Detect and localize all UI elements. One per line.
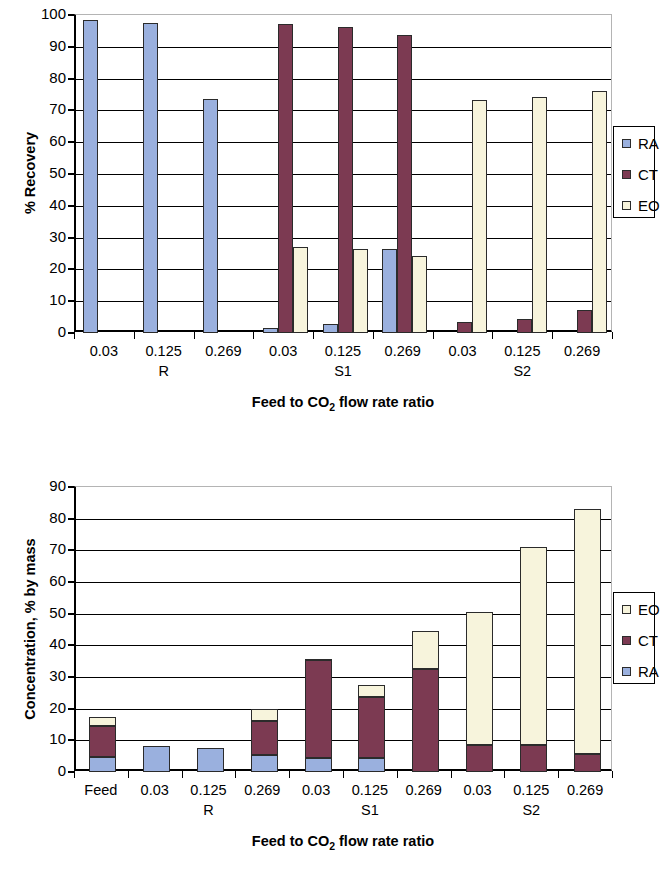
x-tick-mark — [433, 332, 434, 339]
legend-label-ra: RA — [638, 664, 659, 679]
y-tick-label: 100 — [22, 6, 66, 21]
bar-concentration-chart-eo-4 — [305, 659, 332, 661]
x-axis-title: Feed to CO2 flow rate ratio — [44, 394, 642, 413]
bar-concentration-chart-ct-3 — [251, 721, 278, 754]
bar-concentration-chart-eo-7 — [466, 612, 493, 745]
y-tick-mark — [68, 708, 74, 710]
y-tick-label: 0 — [22, 324, 66, 339]
x-tick-mark — [552, 332, 553, 339]
legend-swatch-ra — [622, 667, 631, 676]
x-tick-mark — [134, 332, 135, 339]
legend-item-ct: CT — [622, 633, 658, 648]
bar-recovery-chart-ra-5 — [382, 249, 397, 333]
bar-recovery-chart-ct-7 — [517, 319, 532, 333]
y-tick-mark — [68, 676, 74, 678]
bar-recovery-chart-ra-3 — [263, 328, 278, 333]
bar-concentration-chart-ct-7 — [466, 745, 493, 772]
x-group-label: S2 — [491, 802, 571, 818]
legend-item-ct: CT — [622, 167, 658, 182]
y-tick-mark — [68, 46, 74, 48]
bar-concentration-chart-ct-4 — [305, 659, 332, 758]
x-tick-mark — [373, 332, 374, 339]
y-tick-label: 80 — [22, 510, 66, 525]
x-tick-mark — [504, 771, 505, 778]
x-axis-title-subscript: 2 — [329, 402, 335, 413]
y-tick-mark — [68, 644, 74, 646]
gridline — [76, 519, 611, 520]
x-tick-mark — [397, 771, 398, 778]
plot-area — [74, 486, 612, 771]
legend-item-eo: EO — [622, 602, 660, 617]
y-tick-label: 90 — [22, 478, 66, 493]
bar-concentration-chart-ra-3 — [251, 755, 278, 772]
bar-concentration-chart-ct-6 — [412, 669, 439, 772]
bar-concentration-chart-eo-0 — [89, 717, 116, 727]
y-tick-mark — [68, 549, 74, 551]
legend-swatch-eo — [622, 201, 631, 210]
x-tick-mark — [128, 771, 129, 778]
y-tick-label: 30 — [22, 229, 66, 244]
bar-concentration-chart-eo-8 — [520, 547, 547, 744]
y-tick-mark — [68, 78, 74, 80]
x-group-label: R — [169, 802, 249, 818]
y-tick-mark — [68, 581, 74, 583]
bar-recovery-chart-ct-6 — [457, 322, 472, 333]
x-tick-mark — [612, 771, 613, 778]
y-tick-label: 20 — [22, 260, 66, 275]
x-tick-mark — [74, 771, 75, 778]
bar-concentration-chart-eo-6 — [412, 631, 439, 669]
x-tick-mark — [74, 332, 75, 339]
y-tick-label: 10 — [22, 731, 66, 746]
x-group-label: S2 — [482, 363, 562, 379]
bar-recovery-chart-ct-3 — [278, 24, 293, 333]
legend-swatch-eo — [622, 605, 631, 614]
concentration-chart: 0102030405060708090Feed0.030.1250.2690.0… — [0, 440, 656, 873]
bar-recovery-chart-ra-4 — [323, 324, 338, 333]
y-tick-mark — [68, 300, 74, 302]
bar-recovery-chart-eo-4 — [353, 249, 368, 333]
bar-concentration-chart-ct-5 — [358, 697, 385, 758]
x-group-label: S1 — [330, 802, 410, 818]
x-group-label: S1 — [303, 363, 383, 379]
x-tick-label: 0.269 — [544, 343, 620, 359]
y-tick-mark — [68, 518, 74, 520]
x-group-label: R — [124, 363, 204, 379]
x-tick-mark — [558, 771, 559, 778]
y-axis-title: % Recovery — [22, 132, 38, 214]
legend-swatch-ct — [622, 170, 631, 179]
bar-concentration-chart-ct-0 — [89, 726, 116, 756]
legend-item-ra: RA — [622, 136, 659, 151]
y-tick-label: 0 — [22, 763, 66, 778]
y-tick-mark — [68, 237, 74, 239]
bar-recovery-chart-ra-2 — [203, 99, 218, 333]
legend-swatch-ra — [622, 139, 631, 148]
bar-concentration-chart-ct-9 — [574, 754, 601, 772]
x-tick-mark — [253, 332, 254, 339]
y-tick-mark — [68, 205, 74, 207]
legend-label-ct: CT — [638, 633, 658, 648]
recovery-chart: 01020304050607080901000.030.1250.2690.03… — [0, 0, 656, 440]
y-tick-mark — [68, 739, 74, 741]
y-tick-mark — [68, 486, 74, 488]
legend-item-ra: RA — [622, 664, 659, 679]
x-tick-mark — [235, 771, 236, 778]
legend-label-ra: RA — [638, 136, 659, 151]
y-tick-mark — [68, 613, 74, 615]
bar-concentration-chart-ra-0 — [89, 757, 116, 772]
legend-label-eo: EO — [638, 602, 660, 617]
legend-swatch-ct — [622, 636, 631, 645]
x-tick-mark — [612, 332, 613, 339]
legend-item-eo: EO — [622, 198, 660, 213]
x-tick-mark — [343, 771, 344, 778]
bar-recovery-chart-ra-1 — [143, 23, 158, 333]
x-axis-title: Feed to CO2 flow rate ratio — [44, 833, 642, 852]
bar-concentration-chart-ra-5 — [358, 758, 385, 772]
legend-label-eo: EO — [638, 198, 660, 213]
x-tick-mark — [182, 771, 183, 778]
y-tick-mark — [68, 268, 74, 270]
x-tick-label: 0.269 — [547, 782, 623, 798]
y-tick-label: 10 — [22, 292, 66, 307]
bar-recovery-chart-ct-4 — [338, 27, 353, 333]
x-tick-mark — [289, 771, 290, 778]
bar-concentration-chart-ra-2 — [197, 748, 224, 772]
